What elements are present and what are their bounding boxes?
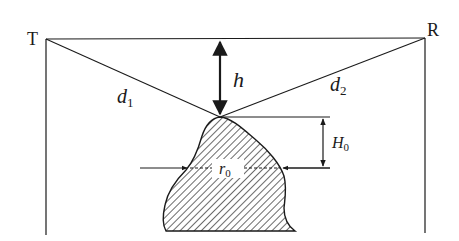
label-d1: d1: [117, 85, 134, 110]
label-d2: d2: [330, 73, 347, 98]
label-receiver: R: [427, 20, 439, 40]
label-h: h: [233, 67, 244, 92]
label-transmitter: T: [27, 29, 38, 49]
label-H0: H0: [331, 134, 350, 153]
line-of-sight: [46, 38, 425, 39]
path-d2: [220, 38, 425, 117]
diffraction-diagram: T R d1 d2 h H0 r0: [0, 0, 459, 241]
